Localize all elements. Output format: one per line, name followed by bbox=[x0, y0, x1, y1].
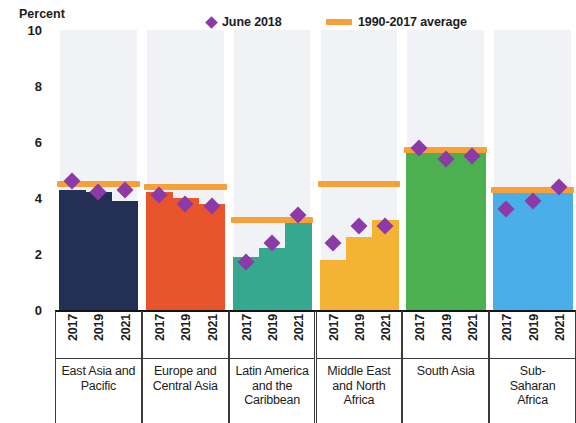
bar bbox=[112, 201, 139, 310]
year-tick-row: 201720192021 bbox=[230, 311, 315, 358]
bar bbox=[546, 190, 573, 310]
y-axis-tick-label: 8 bbox=[8, 79, 42, 94]
x-axis-year-label: 2017 bbox=[153, 314, 167, 341]
x-axis-year-label: 2017 bbox=[240, 314, 254, 341]
diamond-marker-icon bbox=[205, 16, 218, 29]
average-line bbox=[318, 181, 401, 187]
bar bbox=[433, 150, 460, 310]
x-axis-year-label: 2021 bbox=[206, 314, 220, 341]
x-axis-region-box: Middle Eastand NorthAfrica bbox=[317, 358, 402, 423]
x-axis-group-cell: 201720192021East Asia andPacific bbox=[55, 311, 142, 423]
bar bbox=[320, 260, 347, 310]
legend-label-june-2018: June 2018 bbox=[222, 15, 282, 29]
bar bbox=[198, 204, 225, 310]
plot-area bbox=[55, 30, 576, 310]
x-axis-year-label: 2017 bbox=[327, 314, 341, 341]
x-axis-year-label: 2021 bbox=[466, 314, 480, 341]
year-tick-row: 201720192021 bbox=[403, 311, 488, 358]
x-axis-year-label: 2021 bbox=[292, 314, 306, 341]
x-axis-group-cell: 201720192021Latin Americaand theCaribbea… bbox=[229, 311, 316, 423]
bar bbox=[285, 223, 312, 310]
x-axis-group-cell: 201720192021South Asia bbox=[402, 311, 489, 423]
legend-item-average: 1990-2017 average bbox=[326, 15, 467, 29]
bar bbox=[172, 198, 199, 310]
legend-label-average: 1990-2017 average bbox=[358, 15, 467, 29]
x-axis-year-label: 2021 bbox=[119, 314, 133, 341]
x-axis-group-cell: 201720192021Sub-SaharanAfrica bbox=[489, 311, 576, 423]
bar bbox=[406, 150, 433, 310]
x-axis-region-label: East Asia andPacific bbox=[61, 364, 135, 393]
x-axis-year-label: 2019 bbox=[440, 314, 454, 341]
y-axis-tick-label: 10 bbox=[8, 23, 42, 38]
y-axis-tick-label: 0 bbox=[8, 303, 42, 318]
x-axis-year-label: 2019 bbox=[266, 314, 280, 341]
x-axis-year-label: 2019 bbox=[527, 314, 541, 341]
year-tick-row: 201720192021 bbox=[56, 311, 141, 358]
x-axis-year-label: 2021 bbox=[379, 314, 393, 341]
x-axis-region-label: Europe andCentral Asia bbox=[153, 364, 218, 393]
bar bbox=[346, 237, 373, 310]
x-axis-year-label: 2021 bbox=[553, 314, 567, 341]
bar bbox=[146, 192, 173, 310]
x-axis-region-box: Europe andCentral Asia bbox=[143, 358, 228, 423]
bar bbox=[259, 248, 286, 310]
chart-legend: June 2018 1990-2017 average bbox=[0, 0, 576, 30]
bar bbox=[459, 150, 486, 310]
x-axis-region-box: Latin Americaand theCaribbean bbox=[230, 358, 315, 423]
x-axis-group-cell: 201720192021Middle Eastand NorthAfrica bbox=[316, 311, 403, 423]
x-axis-year-label: 2019 bbox=[92, 314, 106, 341]
x-axis-region-box: East Asia andPacific bbox=[56, 358, 141, 423]
x-axis-region-label: Sub-SaharanAfrica bbox=[510, 364, 556, 408]
year-tick-row: 201720192021 bbox=[490, 311, 575, 358]
year-tick-row: 201720192021 bbox=[317, 311, 402, 358]
legend-item-june-2018: June 2018 bbox=[207, 15, 282, 29]
x-axis-year-label: 2017 bbox=[413, 314, 427, 341]
x-axis-year-label: 2019 bbox=[179, 314, 193, 341]
bar bbox=[59, 190, 86, 310]
bar bbox=[85, 192, 112, 310]
bar-chart: June 2018 1990-2017 average Percent 0246… bbox=[0, 0, 576, 423]
x-axis-year-label: 2019 bbox=[353, 314, 367, 341]
x-axis-year-label: 2017 bbox=[500, 314, 514, 341]
y-axis-tick-label: 2 bbox=[8, 247, 42, 262]
x-axis-group-cell: 201720192021Europe andCentral Asia bbox=[142, 311, 229, 423]
x-axis-region-box: Sub-SaharanAfrica bbox=[490, 358, 575, 423]
x-axis-region-box: South Asia bbox=[403, 358, 488, 423]
x-axis-region-label: Latin Americaand theCaribbean bbox=[236, 364, 309, 408]
x-axis-region-label: South Asia bbox=[417, 364, 475, 379]
y-axis-tick-label: 4 bbox=[8, 191, 42, 206]
x-axis-region-label: Middle Eastand NorthAfrica bbox=[327, 364, 390, 408]
x-axis-label-table: 201720192021East Asia andPacific20172019… bbox=[55, 311, 576, 423]
year-tick-row: 201720192021 bbox=[143, 311, 228, 358]
line-marker-icon bbox=[326, 19, 352, 25]
y-axis-tick-label: 6 bbox=[8, 135, 42, 150]
x-axis-year-label: 2017 bbox=[66, 314, 80, 341]
y-axis-title: Percent bbox=[19, 7, 65, 21]
